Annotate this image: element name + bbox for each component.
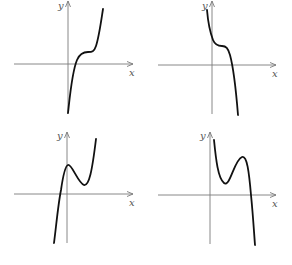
panel-top-left: y x [14, 0, 135, 114]
x-axis-label: x [129, 197, 135, 208]
panel-top-right: y x [158, 0, 278, 115]
x-axis-label: x [129, 67, 135, 78]
function-curve [214, 140, 255, 245]
function-curve [54, 139, 96, 243]
y-axis-label: y [57, 0, 64, 11]
panel-bottom-right: y x [158, 130, 278, 245]
x-axis-label: x [272, 68, 278, 79]
panel-bottom-left: y x [14, 130, 135, 243]
x-axis-label: x [272, 198, 278, 209]
y-axis-label: y [56, 130, 63, 141]
y-axis-label: y [199, 130, 206, 141]
function-curve [68, 9, 103, 113]
cubic-graphs-figure: y x y x y x y x [0, 0, 292, 265]
